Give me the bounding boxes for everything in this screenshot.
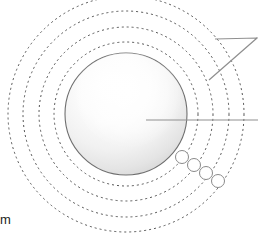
leader-shells-group — [209, 38, 257, 80]
atom-diagram-canvas: m — [0, 0, 258, 236]
nucleus-group — [65, 53, 187, 175]
caption-fragment: m — [0, 212, 11, 228]
leader-shells-line — [209, 38, 257, 80]
electron-2 — [188, 159, 201, 172]
electron-4 — [212, 175, 225, 188]
atom-diagram-svg — [0, 0, 258, 236]
nucleus-highlight — [65, 53, 187, 175]
electron-1 — [176, 151, 189, 164]
electron-3 — [200, 167, 213, 180]
electron-group — [176, 151, 225, 188]
